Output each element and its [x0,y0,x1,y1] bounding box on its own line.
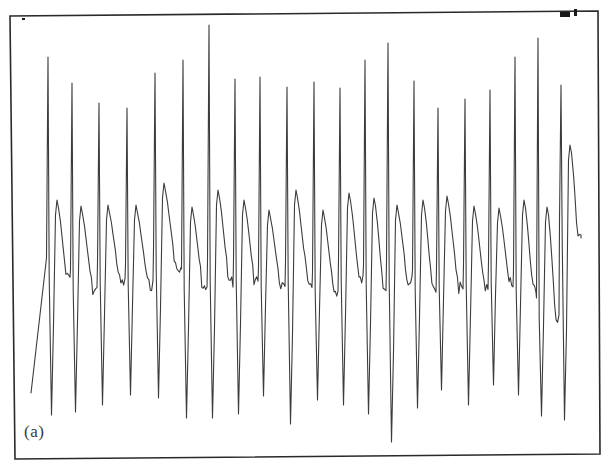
dot-mark [22,18,25,20]
bar-mark [560,12,570,17]
panel-label: (a) [24,422,44,442]
waveform-plot [0,0,605,469]
tick-mark [574,9,577,16]
waveform-trace [31,25,581,442]
waveform-figure: (a) [0,0,605,469]
plot-frame [10,11,600,459]
